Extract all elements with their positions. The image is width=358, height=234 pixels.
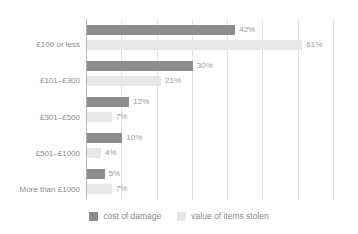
bar-value-label: 7% <box>112 184 128 194</box>
legend-label: cost of damage <box>103 211 161 221</box>
bar-row: 42% <box>87 25 334 35</box>
bar-cost-of-damage <box>87 61 193 71</box>
category-label: £100 or less <box>0 39 80 50</box>
bar-value-label: 5% <box>105 169 121 179</box>
legend-swatch-icon <box>177 212 186 221</box>
legend-item[interactable]: value of items stolen <box>177 211 268 221</box>
bar-value-label: 12% <box>129 97 149 107</box>
bar-rows: 42%61%30%21%12%7%10%4%5%7% <box>87 19 334 200</box>
bar-value-of-items-stolen <box>87 40 302 50</box>
bar-row: 5% <box>87 169 334 179</box>
bar-chart: £100 or less£101–£300£301–£500£501–£1000… <box>0 0 358 234</box>
category-label: More than £1000 <box>0 184 80 195</box>
bar-value-label: 61% <box>302 40 322 50</box>
bar-cost-of-damage <box>87 133 122 143</box>
bar-value-label: 10% <box>122 133 142 143</box>
bar-value-of-items-stolen <box>87 76 161 86</box>
bar-row: 7% <box>87 184 334 194</box>
legend-item[interactable]: cost of damage <box>89 211 161 221</box>
bar-value-of-items-stolen <box>87 184 112 194</box>
legend-swatch-icon <box>89 212 98 221</box>
chart-title <box>0 0 358 1</box>
bar-row: 7% <box>87 112 334 122</box>
plot-area: 42%61%30%21%12%7%10%4%5%7% <box>86 19 334 200</box>
bar-row: 61% <box>87 40 334 50</box>
bar-value-label: 7% <box>112 112 128 122</box>
bar-value-of-items-stolen <box>87 112 112 122</box>
category-label: £501–£1000 <box>0 148 80 159</box>
bar-value-label: 30% <box>193 61 213 71</box>
legend-label: value of items stolen <box>191 211 268 221</box>
bar-cost-of-damage <box>87 97 129 107</box>
bar-value-of-items-stolen <box>87 148 101 158</box>
category-label: £301–£500 <box>0 112 80 123</box>
category-axis-labels: £100 or less£101–£300£301–£500£501–£1000… <box>0 19 80 200</box>
bar-row: 30% <box>87 61 334 71</box>
chart-legend: cost of damagevalue of items stolen <box>0 211 358 221</box>
category-label: £101–£300 <box>0 75 80 86</box>
bar-row: 12% <box>87 97 334 107</box>
bar-value-label: 21% <box>161 76 181 86</box>
bar-cost-of-damage <box>87 25 235 35</box>
bar-row: 10% <box>87 133 334 143</box>
bar-row: 4% <box>87 148 334 158</box>
bar-cost-of-damage <box>87 169 105 179</box>
bar-row: 21% <box>87 76 334 86</box>
bar-value-label: 42% <box>235 25 255 35</box>
bar-value-label: 4% <box>101 148 117 158</box>
